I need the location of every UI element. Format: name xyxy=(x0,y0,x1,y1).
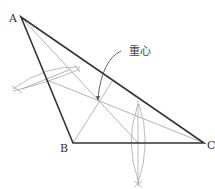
centroid-label: 重心 xyxy=(129,44,151,58)
vertex-label-a: A xyxy=(8,12,18,25)
arrow-icon xyxy=(98,51,121,98)
centroid-diagram: A B C 重心 xyxy=(0,0,215,189)
vertex-label-c: C xyxy=(207,139,215,152)
diagram-svg: A B C 重心 xyxy=(0,0,215,189)
triangle-abc xyxy=(21,17,204,143)
vertex-label-b: B xyxy=(60,142,68,155)
